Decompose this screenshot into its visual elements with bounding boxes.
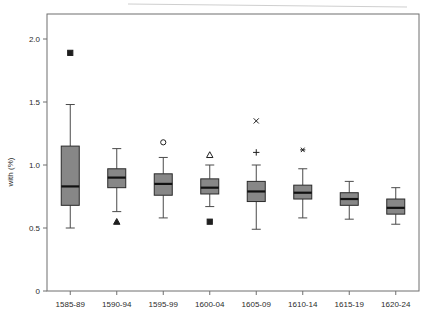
y-tick-label-0: 0 bbox=[36, 287, 41, 296]
y-axis-label: with (%) bbox=[6, 157, 15, 187]
y-tick-label-4: 2.0 bbox=[29, 35, 41, 44]
outlier-1600-04-1 bbox=[207, 219, 212, 224]
outlier-1585-89-0 bbox=[68, 50, 73, 55]
x-tick-label-1585-89: 1585-89 bbox=[56, 300, 86, 309]
x-tick-label-1615-19: 1615-19 bbox=[335, 300, 365, 309]
box-iqr-1600-04 bbox=[201, 179, 219, 194]
y-tick-label-2: 1.0 bbox=[29, 161, 41, 170]
box-iqr-1620-24 bbox=[387, 199, 405, 214]
x-tick-label-1610-14: 1610-14 bbox=[288, 300, 318, 309]
x-tick-label-1590-94: 1590-94 bbox=[102, 300, 132, 309]
y-tick-label-3: 1.5 bbox=[29, 98, 41, 107]
box-iqr-1585-89 bbox=[61, 146, 79, 205]
x-tick-label-1595-99: 1595-99 bbox=[149, 300, 179, 309]
box-plot-figure: 00.51.01.52.0 1585-891590-941595-991600-… bbox=[0, 0, 427, 318]
y-tick-label-1: 0.5 bbox=[29, 224, 41, 233]
x-tick-label-1600-04: 1600-04 bbox=[195, 300, 225, 309]
x-tick-label-1605-09: 1605-09 bbox=[242, 300, 272, 309]
x-tick-label-1620-24: 1620-24 bbox=[381, 300, 411, 309]
